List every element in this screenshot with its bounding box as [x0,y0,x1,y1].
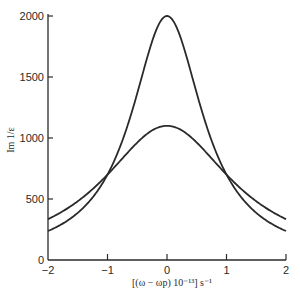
y-axis-title: Im 1/ε [5,127,16,153]
x-tick-label: 0 [164,264,170,276]
x-axis-title: [(ω − ωp) 10⁻¹³] s⁻¹ [132,277,212,289]
x-tick-label: −1 [101,264,114,276]
y-tick-label: 1000 [20,132,44,144]
x-tick-label: 1 [223,264,229,276]
y-axis: 0500100015002000 [20,10,53,266]
series-line-1 [48,16,286,231]
y-tick-label: 500 [26,193,44,205]
plot-lines [48,16,286,231]
x-axis: −2−1012 [42,254,289,276]
y-tick-label: 1500 [20,71,44,83]
series-line-2 [48,126,286,219]
x-tick-label: 2 [283,264,289,276]
chart: 0500100015002000 −2−1012 Im 1/ε [(ω − ωp… [0,0,300,301]
y-tick-label: 2000 [20,10,44,22]
x-tick-label: −2 [42,264,55,276]
